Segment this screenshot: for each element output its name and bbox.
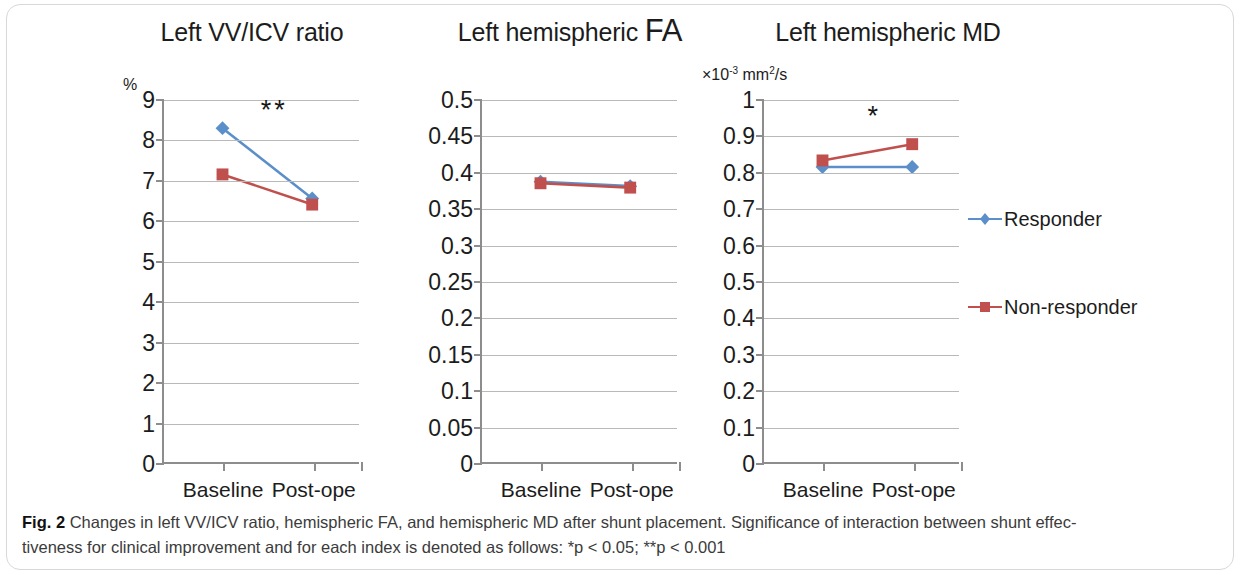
y-tick-mark — [474, 390, 482, 392]
y-tick-label: 0.35 — [428, 198, 473, 221]
caption-figure-number: Fig. 2 — [22, 513, 65, 531]
y-tick-label: 0.05 — [428, 416, 473, 439]
figure-caption: Fig. 2 Changes in left VV/ICV ratio, hem… — [22, 510, 1217, 560]
gridline — [482, 391, 677, 392]
plot-area-hemispheric-md: 10.90.80.70.60.50.40.30.20.10BaselinePos… — [762, 100, 959, 464]
legend-item-responder[interactable]: Responder — [968, 208, 1102, 230]
y-tick-mark — [756, 390, 764, 392]
data-point-marker — [535, 177, 547, 189]
caption-line-2: tiveness for clinical improvement and fo… — [22, 535, 1217, 560]
y-tick-mark — [156, 99, 164, 101]
y-tick-mark — [156, 220, 164, 222]
x-tick-mark — [314, 462, 316, 471]
y-tick-label: 1 — [142, 412, 155, 435]
y-axis-unit-md: ×10-3 mm2/s — [702, 66, 787, 84]
legend-item-non-responder[interactable]: Non-responder — [968, 296, 1137, 318]
y-tick-label: 0 — [142, 453, 155, 476]
x-tick-label: Post-ope — [590, 478, 674, 502]
x-tick-label: Baseline — [183, 478, 264, 502]
gridline — [764, 173, 959, 174]
y-tick-label: 0.25 — [428, 271, 473, 294]
caption-text-1: Changes in left VV/ICV ratio, hemispheri… — [70, 513, 1077, 531]
gridline — [764, 246, 959, 247]
x-tick-label: Baseline — [783, 478, 864, 502]
y-tick-label: 2 — [142, 372, 155, 395]
y-tick-mark — [156, 423, 164, 425]
y-tick-label: 4 — [142, 291, 155, 314]
y-tick-label: 0 — [460, 453, 473, 476]
y-tick-mark — [156, 301, 164, 303]
x-axis-end-tick — [961, 462, 963, 471]
series-line-responder — [223, 128, 313, 198]
y-tick-mark — [756, 172, 764, 174]
gridline — [164, 302, 359, 303]
gridline — [482, 173, 677, 174]
y-tick-mark — [474, 317, 482, 319]
y-tick-label: 0.1 — [723, 416, 755, 439]
gridline — [764, 355, 959, 356]
gridline — [164, 383, 359, 384]
x-tick-mark — [823, 462, 825, 471]
gridline — [164, 424, 359, 425]
y-tick-label: 0.7 — [723, 198, 755, 221]
y-tick-mark — [756, 208, 764, 210]
plot-area-hemispheric-fa: 0.50.450.40.350.30.250.20.150.10.050Base… — [480, 100, 677, 464]
significance-annotation: * — [868, 103, 882, 130]
x-tick-mark — [223, 462, 225, 471]
y-tick-label: 9 — [142, 89, 155, 112]
x-tick-label: Post-ope — [272, 478, 356, 502]
y-tick-label: 0.45 — [428, 125, 473, 148]
y-tick-mark — [474, 245, 482, 247]
y-tick-label: 1 — [742, 89, 755, 112]
chart-title-hemispheric-md: Left hemispheric MD — [738, 16, 1038, 47]
chart-title-hemispheric-fa: Left hemispheric FA — [420, 16, 720, 47]
x-axis-end-tick — [361, 462, 363, 471]
gridline — [164, 262, 359, 263]
y-tick-label: 0.6 — [723, 234, 755, 257]
caption-line-1: Fig. 2 Changes in left VV/ICV ratio, hem… — [22, 510, 1217, 535]
x-axis-end-tick — [679, 462, 681, 471]
x-tick-mark — [914, 462, 916, 471]
y-tick-mark — [474, 208, 482, 210]
plots-area: Left VV/ICV ratio % 9876543210BaselinePo… — [0, 0, 1240, 505]
responder-marker-icon — [968, 210, 1002, 228]
significance-annotation: ** — [261, 97, 288, 124]
y-tick-mark — [474, 281, 482, 283]
y-tick-label: 0 — [742, 453, 755, 476]
y-tick-mark — [474, 99, 482, 101]
y-tick-mark — [756, 317, 764, 319]
y-tick-mark — [474, 463, 482, 465]
y-tick-label: 5 — [142, 250, 155, 273]
y-tick-mark — [756, 99, 764, 101]
gridline — [764, 100, 959, 101]
non-responder-marker-icon — [968, 298, 1002, 316]
data-point-marker — [817, 154, 829, 166]
y-tick-label: 7 — [142, 169, 155, 192]
gridline — [482, 100, 677, 101]
gridline — [764, 318, 959, 319]
gridline — [164, 221, 359, 222]
gridline — [482, 318, 677, 319]
series-line-non-responder — [823, 144, 913, 160]
y-tick-label: 0.15 — [428, 343, 473, 366]
y-tick-mark — [474, 354, 482, 356]
y-tick-mark — [756, 135, 764, 137]
y-tick-label: 0.8 — [723, 161, 755, 184]
series-lines-hemispheric-md — [764, 100, 959, 462]
figure-page: Left VV/ICV ratio % 9876543210BaselinePo… — [0, 0, 1240, 575]
y-tick-label: 0.1 — [441, 380, 473, 403]
gridline — [482, 209, 677, 210]
x-tick-mark — [632, 462, 634, 471]
gridline — [764, 209, 959, 210]
y-tick-label: 0.2 — [723, 380, 755, 403]
gridline — [764, 282, 959, 283]
y-tick-label: 0.4 — [441, 161, 473, 184]
gridline — [764, 428, 959, 429]
y-tick-label: 3 — [142, 331, 155, 354]
x-tick-label: Post-ope — [872, 478, 956, 502]
plot-area-vv-icv-ratio: 9876543210BaselinePost-ope** — [162, 100, 359, 464]
gridline — [482, 136, 677, 137]
data-point-marker — [217, 168, 229, 180]
x-tick-mark — [541, 462, 543, 471]
chart-panel-hemispheric-fa: Left hemispheric FA 0.50.450.40.350.30.2… — [420, 0, 720, 505]
